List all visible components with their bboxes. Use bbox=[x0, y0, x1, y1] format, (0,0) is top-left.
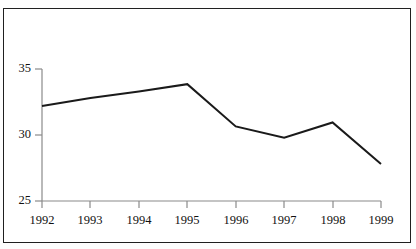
y-axis-tick-label-25: 25 bbox=[7, 193, 31, 208]
chart-figure: 35 30 25 1992 1993 1994 1995 1996 1997 1… bbox=[0, 0, 416, 249]
x-axis-tick-label-1996: 1996 bbox=[215, 213, 257, 228]
chart-title-strip bbox=[0, 0, 416, 8]
x-axis-tick-label-1993: 1993 bbox=[69, 213, 111, 228]
x-axis-tick-label-1992: 1992 bbox=[21, 213, 63, 228]
data-series-line bbox=[42, 84, 381, 164]
x-axis-tick-label-1995: 1995 bbox=[166, 213, 208, 228]
x-axis-tick-label-1999: 1999 bbox=[360, 213, 402, 228]
x-axis-ticks bbox=[42, 201, 381, 208]
chart-frame: 35 30 25 1992 1993 1994 1995 1996 1997 1… bbox=[3, 8, 411, 243]
axis-lines bbox=[42, 69, 381, 201]
y-axis-tick-label-30: 30 bbox=[7, 127, 31, 142]
x-axis-tick-label-1994: 1994 bbox=[118, 213, 160, 228]
y-axis-ticks bbox=[35, 69, 42, 201]
chart-plot-area bbox=[4, 9, 409, 241]
x-axis-tick-label-1998: 1998 bbox=[312, 213, 354, 228]
y-axis-tick-label-35: 35 bbox=[7, 61, 31, 76]
x-axis-tick-label-1997: 1997 bbox=[263, 213, 305, 228]
